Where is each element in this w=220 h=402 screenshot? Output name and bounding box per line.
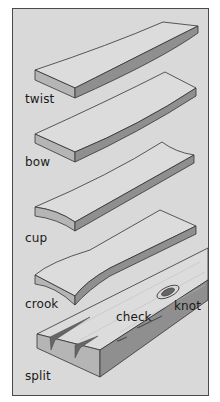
label-bow: bow [25, 156, 50, 168]
label-split: split [25, 370, 51, 382]
lumber-defects-illustration [0, 0, 220, 402]
label-cup: cup [25, 232, 47, 244]
label-check: check [116, 311, 152, 323]
label-twist: twist [25, 93, 54, 105]
label-knot: knot [174, 300, 201, 312]
label-crook: crook [25, 298, 58, 310]
